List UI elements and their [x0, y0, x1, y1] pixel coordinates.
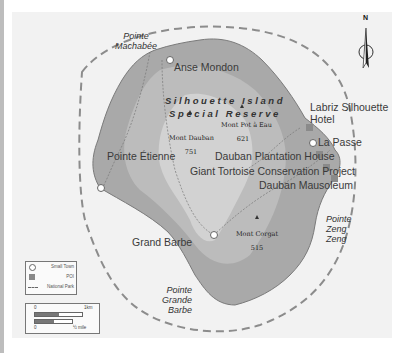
town-marker-pointe-etienne: [98, 185, 105, 192]
scale-mile-zero: 0: [34, 325, 37, 330]
peak-label-mont-dauban[interactable]: Mont Dauban 751: [169, 134, 213, 156]
town-label-la-passe[interactable]: La Passe: [318, 136, 362, 148]
town-label-pointe-etienne[interactable]: Pointe Étienne: [107, 150, 175, 162]
reserve-title-line1: Silhouette Island: [155, 94, 295, 107]
legend-item-national-park: National Park: [26, 283, 76, 292]
poi-label-dauban-plantation[interactable]: Dauban Plantation House: [215, 150, 335, 162]
legend-item-poi: POI: [26, 273, 76, 282]
scale-km-bar: [34, 312, 83, 317]
peak-label-mont-corgat[interactable]: Mont Corgat 515: [235, 230, 279, 252]
peak-label-mont-pot-a-eau[interactable]: Mont Pot à Eau 621: [221, 121, 265, 143]
cape-label-machabee: Pointe Machabée: [112, 31, 160, 51]
poi-label-dauban-mausoleum[interactable]: Dauban Mausoleum: [259, 179, 353, 191]
dashed-line-icon: [28, 287, 38, 288]
scale-mile-label: ½ mile: [73, 325, 86, 330]
compass-icon: [359, 28, 373, 68]
town-label-anse-mondon[interactable]: Anse Mondon: [174, 61, 239, 73]
poi-label-tortoise-project[interactable]: Giant Tortoise Conservation Project: [190, 165, 355, 177]
scale-km-zero: 0: [34, 305, 37, 310]
reserve-title-line2: Special Reserve: [155, 107, 295, 120]
poi-label-labriz-hotel[interactable]: Labriz Silhouette Hotel: [310, 101, 388, 125]
scale-km-label: 1km: [84, 305, 93, 310]
cape-label-zeng-zeng: Pointe Zeng Zeng: [326, 214, 362, 244]
scale-mile-bar: [34, 319, 73, 324]
town-marker-la-passe: [310, 140, 317, 147]
scale-bar: 0 1km 0 ½ mile: [25, 303, 100, 334]
circle-icon: [29, 264, 36, 271]
reserve-title: Silhouette Island Special Reserve: [155, 94, 295, 120]
town-marker-grand-barbe: [211, 232, 218, 239]
legend-item-small-town: Small Town: [26, 263, 76, 272]
compass-north-label: N: [363, 14, 368, 21]
poi-marker-labriz-hotel: [306, 124, 313, 131]
town-label-grand-barbe[interactable]: Grand Barbe: [132, 236, 192, 248]
map-legend: Small Town POI National Park: [25, 261, 77, 295]
cape-label-grande-barbe: Pointe Grande Barbe: [152, 285, 192, 315]
square-icon: [29, 274, 35, 280]
town-marker-anse-mondon: [167, 57, 174, 64]
